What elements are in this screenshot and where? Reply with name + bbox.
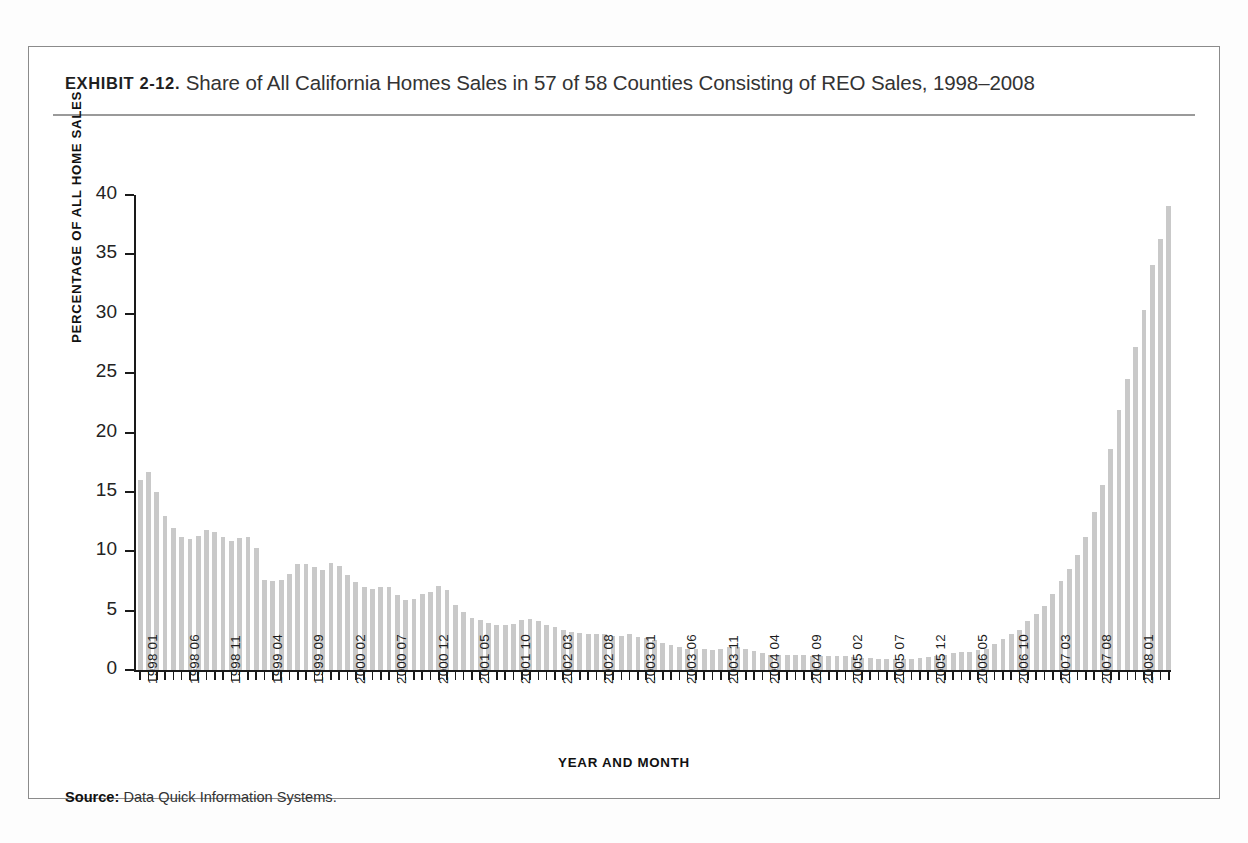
- x-axis-tick: [471, 671, 473, 680]
- bar: [1166, 206, 1171, 670]
- bar: [536, 621, 541, 670]
- y-axis-tick: [125, 610, 134, 612]
- y-axis-tick: [125, 194, 134, 196]
- x-axis-tick: [662, 671, 664, 680]
- bar: [677, 647, 682, 670]
- bar: [262, 580, 267, 670]
- bar: [138, 480, 143, 670]
- x-axis-tick: [596, 671, 598, 680]
- bar: [453, 605, 458, 670]
- bar: [926, 657, 931, 670]
- bar: [793, 655, 798, 670]
- x-axis-tick: [1168, 671, 1170, 680]
- x-axis-tick: [712, 671, 714, 680]
- bar: [660, 643, 665, 670]
- bar: [221, 537, 226, 670]
- bar: [992, 644, 997, 670]
- y-axis-tick-label: 35: [57, 241, 117, 263]
- x-axis-tick-label: 2003 11: [726, 635, 741, 684]
- x-axis-tick: [679, 671, 681, 680]
- bar: [1001, 639, 1006, 670]
- bar: [511, 624, 516, 670]
- x-axis-tick: [538, 671, 540, 680]
- bar: [826, 656, 831, 670]
- x-axis-tick: [1052, 671, 1054, 680]
- bar: [171, 528, 176, 671]
- x-axis-tick-label: 2007 08: [1099, 634, 1114, 684]
- y-axis-tick-label: 40: [57, 182, 117, 204]
- bar: [951, 653, 956, 670]
- bar: [246, 537, 251, 670]
- x-axis-tick: [969, 671, 971, 680]
- x-axis-tick: [305, 671, 307, 680]
- bar: [1133, 347, 1138, 670]
- x-axis-tick: [455, 671, 457, 680]
- chart-container: PERCENTAGE OF ALL HOME SALES 05101520253…: [29, 117, 1219, 800]
- bar: [801, 655, 806, 670]
- bar: [1034, 614, 1039, 670]
- bar: [1083, 537, 1088, 670]
- bar: [868, 658, 873, 670]
- x-axis-tick: [164, 671, 166, 680]
- x-axis-tick-label: 2001 05: [477, 634, 492, 684]
- x-axis-tick-label: 2000 02: [353, 634, 368, 684]
- x-axis-tick: [869, 671, 871, 680]
- y-axis-tick-label: 10: [57, 538, 117, 560]
- bar: [204, 530, 209, 670]
- x-axis-tick: [878, 671, 880, 680]
- y-axis-tick: [125, 550, 134, 552]
- bar: [212, 532, 217, 670]
- bar: [304, 564, 309, 670]
- bar: [420, 594, 425, 670]
- bar: [1117, 410, 1122, 670]
- x-axis-tick: [587, 671, 589, 680]
- x-axis-tick: [1035, 671, 1037, 680]
- x-axis-tick: [181, 671, 183, 680]
- x-axis-tick: [919, 671, 921, 680]
- x-axis-tick-label: 2006 05: [975, 634, 990, 684]
- bar: [295, 564, 300, 670]
- x-axis-tick-label: 1998 11: [228, 635, 243, 684]
- bar: [254, 548, 259, 670]
- x-axis-tick: [720, 671, 722, 680]
- bar: [909, 659, 914, 670]
- x-axis-tick: [1002, 671, 1004, 680]
- x-axis-tick: [496, 671, 498, 680]
- x-axis-tick: [463, 671, 465, 680]
- x-axis-tick: [803, 671, 805, 680]
- x-axis-tick: [1077, 671, 1079, 680]
- x-axis-tick-label: 2004 09: [809, 634, 824, 684]
- x-axis-tick-label: 2005 12: [933, 634, 948, 684]
- bar: [752, 651, 757, 670]
- x-axis-tick-label: 1998 06: [187, 634, 202, 684]
- bar: [1075, 555, 1080, 670]
- exhibit-number-label: EXHIBIT 2-12.: [65, 74, 180, 92]
- x-axis-tick: [330, 671, 332, 680]
- bar: [967, 652, 972, 670]
- bar: [1125, 379, 1130, 670]
- x-axis-tick-label: 2005 02: [850, 634, 865, 684]
- x-axis-tick: [629, 671, 631, 680]
- x-axis-tick: [1044, 671, 1046, 680]
- y-axis-tick-label: 15: [57, 479, 117, 501]
- bar: [461, 612, 466, 670]
- x-axis-tick-label: 2003 01: [643, 634, 658, 684]
- bar: [1042, 606, 1047, 670]
- x-axis-tick-label: 2005 07: [892, 634, 907, 684]
- bar: [1092, 512, 1097, 670]
- y-axis-tick: [125, 313, 134, 315]
- x-axis-tick: [961, 671, 963, 680]
- x-axis-tick: [786, 671, 788, 680]
- bar: [710, 650, 715, 670]
- x-axis-tick: [380, 671, 382, 680]
- x-axis-tick: [1127, 671, 1129, 680]
- bar: [470, 618, 475, 670]
- y-axis-tick-label: 30: [57, 301, 117, 323]
- bar: [884, 659, 889, 670]
- exhibit-header: EXHIBIT 2-12. Share of All California Ho…: [29, 47, 1219, 103]
- bar: [1009, 634, 1014, 670]
- x-axis-tick: [952, 671, 954, 680]
- bar: [627, 634, 632, 670]
- x-axis-tick: [289, 671, 291, 680]
- y-axis-tick-label: 0: [57, 657, 117, 679]
